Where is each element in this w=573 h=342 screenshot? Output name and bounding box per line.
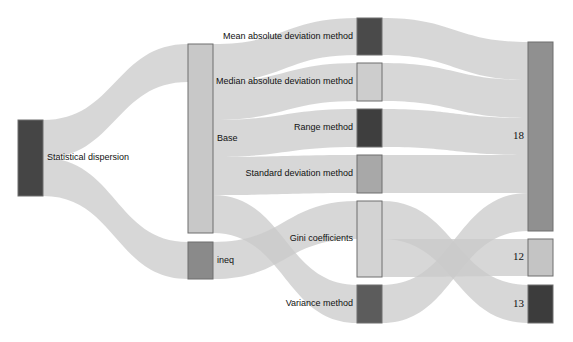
node-n18[interactable] — [528, 42, 553, 231]
node-label-range: Range method — [294, 122, 353, 132]
node-stat[interactable] — [18, 120, 43, 196]
node-gini[interactable] — [357, 201, 382, 277]
node-var[interactable] — [357, 285, 382, 323]
node-label-stat: Statistical dispersion — [47, 152, 129, 162]
link-stat-to-base[interactable] — [43, 44, 188, 158]
node-median[interactable] — [357, 63, 382, 101]
node-label-n13: 13 — [513, 297, 525, 309]
node-label-base: Base — [217, 133, 238, 143]
node-label-n18: 18 — [513, 129, 525, 141]
node-n13[interactable] — [528, 285, 553, 323]
node-std[interactable] — [357, 155, 382, 193]
node-label-std: Standard deviation method — [245, 168, 353, 178]
node-base[interactable] — [188, 44, 213, 233]
sankey-diagram: Statistical dispersionBaseineqMean absol… — [0, 0, 573, 342]
node-label-n12: 12 — [513, 250, 524, 262]
node-label-mean: Mean absolute deviation method — [223, 31, 353, 41]
node-ineq[interactable] — [188, 242, 213, 279]
node-label-ineq: ineq — [217, 255, 234, 265]
node-label-gini: Gini coefficients — [290, 233, 354, 243]
node-label-median: Median absolute deviation method — [216, 76, 353, 86]
link-stat-to-ineq[interactable] — [43, 158, 188, 279]
link-gini-to-n12[interactable] — [382, 239, 528, 277]
link-std-to-n18[interactable] — [382, 155, 528, 193]
node-range[interactable] — [357, 109, 382, 147]
node-n12[interactable] — [528, 239, 553, 276]
node-label-var: Variance method — [286, 298, 353, 308]
node-mean[interactable] — [357, 18, 382, 55]
